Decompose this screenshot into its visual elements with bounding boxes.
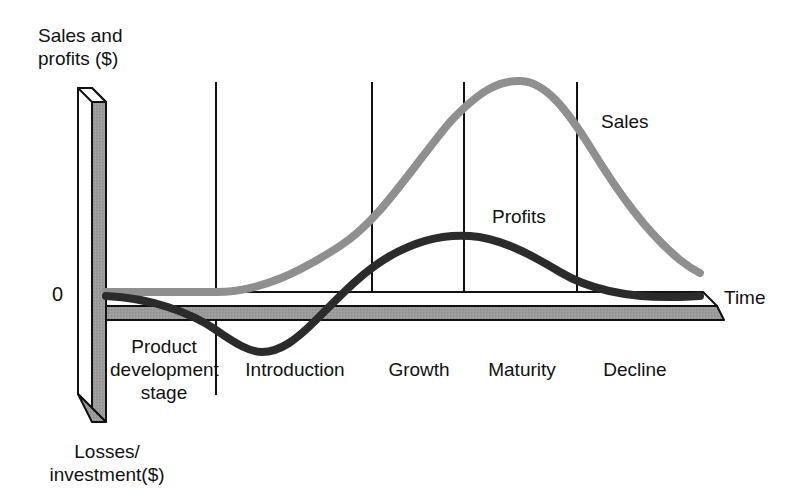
value-axis-front-face — [78, 88, 92, 408]
losses-investment-label: Losses/ investment($) — [22, 440, 192, 486]
stage-label-maturity: Maturity — [466, 358, 578, 381]
life-cycle-chart-canvas — [0, 0, 810, 502]
stage-label-product-development: Product development stage — [110, 335, 218, 404]
value-axis-slab — [78, 88, 106, 422]
y-axis-title: Sales and profits ($) — [38, 24, 123, 70]
stage-label-decline: Decline — [580, 358, 690, 381]
stage-label-introduction: Introduction — [220, 358, 370, 381]
profits-series-label: Profits — [492, 205, 546, 228]
zero-tick-label: 0 — [52, 283, 63, 306]
sales-series-label: Sales — [601, 110, 649, 133]
x-axis-title: Time — [724, 286, 766, 309]
product-life-cycle-figure: Sales and profits ($) 0 Time Losses/ inv… — [0, 0, 810, 502]
stage-label-growth: Growth — [374, 358, 464, 381]
value-axis-side-face — [92, 88, 106, 422]
